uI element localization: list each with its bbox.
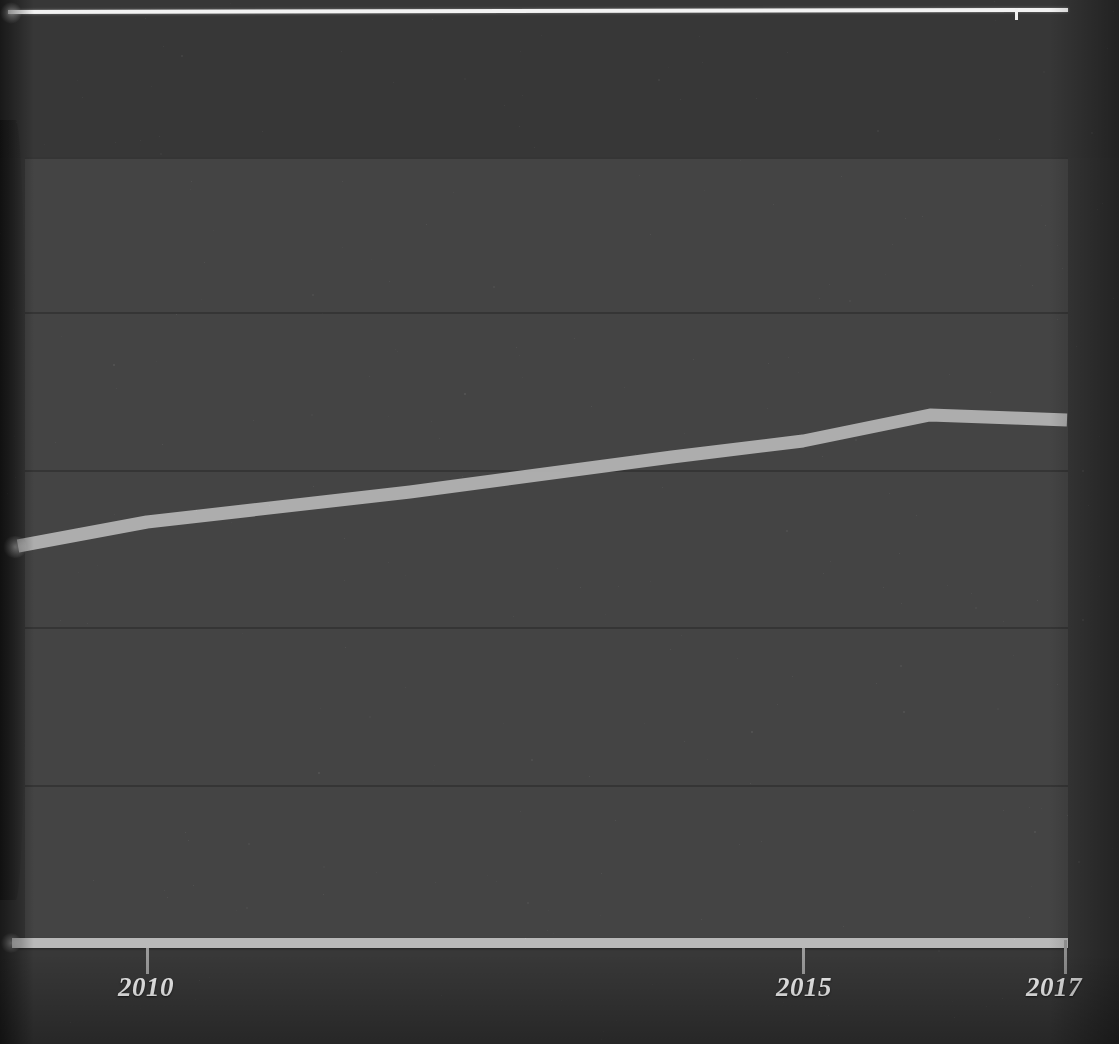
- film-grain: [0, 0, 1119, 1044]
- chart-page: 2010 2015 2017: [0, 0, 1119, 1044]
